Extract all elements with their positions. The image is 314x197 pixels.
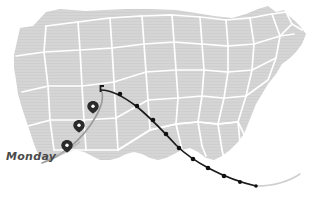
day-label-monday: Monday bbox=[6, 150, 56, 163]
us-landmass bbox=[14, 6, 306, 160]
track-point bbox=[206, 166, 211, 171]
track-point bbox=[164, 132, 169, 137]
track-point bbox=[191, 157, 196, 162]
track-point bbox=[254, 184, 258, 188]
track-point bbox=[135, 104, 140, 109]
track-point bbox=[177, 146, 182, 151]
track-point bbox=[118, 92, 123, 97]
forecast-track-tail bbox=[256, 174, 300, 186]
track-point bbox=[222, 174, 227, 179]
us-map-svg bbox=[0, 0, 314, 197]
track-point bbox=[238, 180, 242, 184]
storm-track-map: Monday bbox=[0, 0, 314, 197]
track-point bbox=[151, 118, 156, 123]
